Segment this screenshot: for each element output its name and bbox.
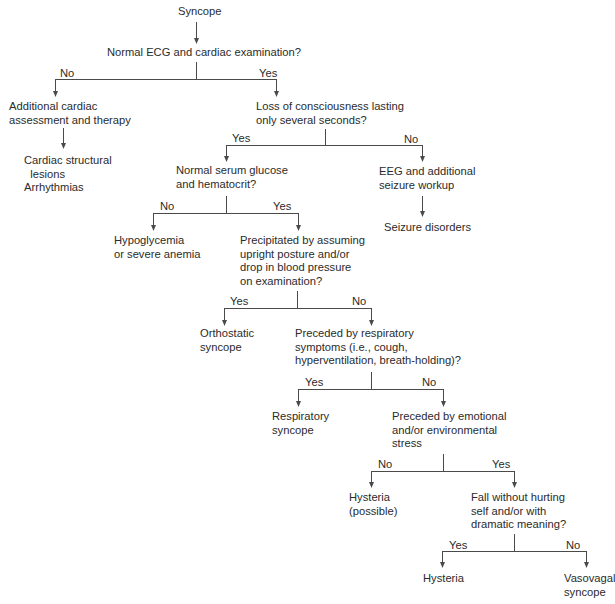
node-hypoglycemia: Hypoglycemia or severe anemia — [114, 234, 200, 261]
node-stress-question: Preceded by emotional and/or environment… — [392, 410, 506, 451]
branch-label-ecg-no: No — [60, 67, 74, 80]
node-hysteria-possible: Hysteria (possible) — [349, 491, 398, 518]
branch-label-fall-no: No — [566, 539, 580, 552]
node-hysteria: Hysteria — [423, 572, 464, 586]
node-fall-question: Fall without hurting self and/or with dr… — [471, 491, 566, 532]
node-syncope: Syncope — [178, 5, 222, 19]
node-eeg-workup: EEG and additional seizure workup — [379, 165, 475, 192]
node-respiratory-question: Preceded by respiratory symptoms (i.e., … — [295, 327, 461, 368]
branch-label-loc-no: No — [404, 133, 418, 146]
branch-label-loc-yes: Yes — [232, 132, 250, 145]
node-loc-question: Loss of consciousness lasting only sever… — [256, 100, 404, 127]
branch-label-respiratory-no: No — [422, 376, 436, 389]
branch-label-glucose-no: No — [160, 200, 174, 213]
node-cardiac-outcomes: Cardiac structural lesions Arrhythmias — [24, 154, 112, 195]
node-seizure-disorders: Seizure disorders — [384, 221, 471, 235]
node-glucose-question: Normal serum glucose and hematocrit? — [176, 164, 288, 191]
branch-label-glucose-yes: Yes — [273, 200, 291, 213]
node-orthostatic: Orthostatic syncope — [200, 327, 254, 354]
branch-label-stress-no: No — [378, 458, 392, 471]
branch-label-fall-yes: Yes — [449, 539, 467, 552]
branch-label-respiratory-yes: Yes — [305, 376, 323, 389]
branch-label-ecg-yes: Yes — [259, 67, 277, 80]
branch-label-stress-yes: Yes — [492, 458, 510, 471]
node-posture-question: Precipitated by assuming upright posture… — [240, 234, 365, 288]
node-respiratory-syncope: Respiratory syncope — [272, 410, 329, 437]
branch-label-posture-no: No — [352, 295, 366, 308]
node-ecg-question: Normal ECG and cardiac examination? — [107, 46, 301, 60]
branch-label-posture-yes: Yes — [230, 295, 248, 308]
node-vasovagal: Vasovagal syncope — [564, 572, 615, 599]
node-cardiac-assessment: Additional cardiac assessment and therap… — [9, 100, 131, 127]
